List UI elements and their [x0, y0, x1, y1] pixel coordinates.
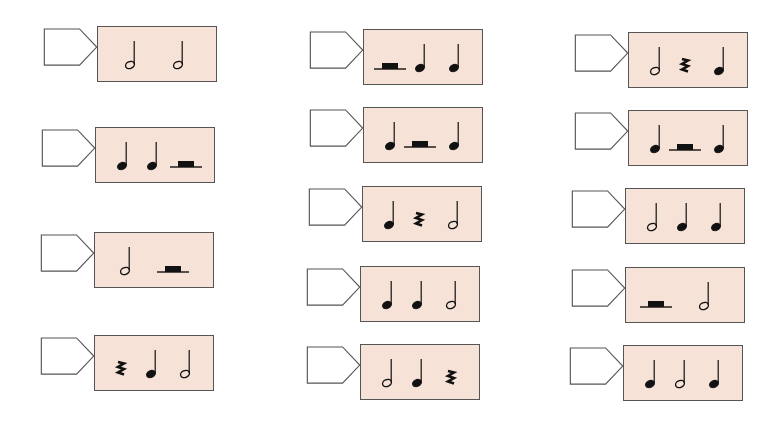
half-note-icon: [445, 281, 456, 310]
quarter-note-icon: [713, 47, 724, 76]
measure-card: [574, 32, 750, 92]
answer-input[interactable]: [44, 343, 88, 371]
measure-card: [41, 127, 217, 187]
rhythm-symbols: [629, 111, 749, 167]
rhythm-symbols: [629, 33, 749, 89]
rhythm-symbols: [624, 346, 744, 402]
measure-card: [309, 29, 485, 89]
rhythm-symbols: [626, 189, 746, 245]
answer-input[interactable]: [47, 34, 91, 62]
quarter-note-icon: [383, 201, 394, 230]
half-note-icon: [124, 41, 135, 70]
quarter-note-icon: [448, 44, 459, 73]
half-rest-icon: [640, 301, 672, 307]
quarter-note-icon: [116, 142, 127, 171]
measure-card: [306, 344, 482, 404]
half-note-icon: [674, 360, 685, 389]
rhythm-symbols: [363, 187, 483, 243]
measure-card: [40, 335, 216, 395]
rhythm-symbols: [96, 128, 216, 184]
half-note-icon: [381, 359, 392, 388]
half-rest-icon: [157, 266, 189, 272]
rhythm-symbols: [361, 345, 481, 401]
answer-input[interactable]: [575, 275, 619, 303]
rhythm-measure-box: [625, 188, 745, 244]
answer-input[interactable]: [578, 118, 622, 146]
half-note-icon: [119, 247, 130, 276]
rhythm-symbols: [98, 27, 218, 83]
rhythm-symbols: [364, 30, 484, 86]
half-note-icon: [698, 282, 709, 311]
rhythm-measure-box: [623, 345, 743, 401]
quarter-rest-icon: [448, 371, 454, 384]
rhythm-measure-box: [94, 335, 214, 391]
quarter-note-icon: [145, 350, 156, 379]
rhythm-measure-box: [95, 127, 215, 183]
half-note-icon: [649, 47, 660, 76]
rhythm-symbols: [95, 233, 215, 289]
answer-input[interactable]: [313, 37, 357, 65]
quarter-note-icon: [676, 203, 687, 232]
rhythm-measure-box: [363, 107, 483, 163]
measure-card: [574, 110, 750, 170]
quarter-note-icon: [384, 122, 395, 151]
rhythm-symbols: [364, 108, 484, 164]
quarter-rest-icon: [118, 362, 124, 375]
half-note-icon: [646, 203, 657, 232]
measure-card: [309, 107, 485, 167]
answer-input[interactable]: [578, 40, 622, 68]
measure-card: [43, 26, 219, 86]
quarter-note-icon: [710, 203, 721, 232]
answer-input[interactable]: [310, 352, 354, 380]
half-note-icon: [179, 350, 190, 379]
measure-card: [569, 345, 745, 405]
answer-input[interactable]: [313, 115, 357, 143]
rhythm-measure-box: [628, 32, 748, 88]
measure-card: [40, 232, 216, 292]
rhythm-symbols: [95, 336, 215, 392]
rhythm-measure-box: [360, 344, 480, 400]
answer-input[interactable]: [310, 274, 354, 302]
measure-card: [306, 266, 482, 326]
quarter-note-icon: [644, 360, 655, 389]
measure-card: [571, 188, 747, 248]
rhythm-symbols: [626, 268, 746, 324]
measure-card: [308, 186, 484, 246]
half-note-icon: [172, 41, 183, 70]
answer-input[interactable]: [575, 196, 619, 224]
half-rest-icon: [170, 161, 202, 167]
quarter-note-icon: [713, 125, 724, 154]
answer-input[interactable]: [573, 353, 617, 381]
quarter-note-icon: [708, 360, 719, 389]
rhythm-measure-box: [362, 186, 482, 242]
answer-input[interactable]: [312, 194, 356, 222]
rhythm-measure-box: [94, 232, 214, 288]
answer-input[interactable]: [45, 135, 89, 163]
rhythm-symbols: [361, 267, 481, 323]
quarter-note-icon: [411, 281, 422, 310]
rhythm-measure-box: [363, 29, 483, 85]
half-rest-icon: [669, 144, 701, 150]
quarter-rest-icon: [682, 59, 688, 72]
rhythm-measure-box: [97, 26, 217, 82]
quarter-note-icon: [649, 125, 660, 154]
half-note-icon: [447, 201, 458, 230]
rhythm-measure-box: [360, 266, 480, 322]
rhythm-measure-box: [625, 267, 745, 323]
quarter-note-icon: [414, 44, 425, 73]
quarter-note-icon: [411, 359, 422, 388]
rhythm-measure-box: [628, 110, 748, 166]
answer-input[interactable]: [44, 240, 88, 268]
measure-card: [571, 267, 747, 327]
half-rest-icon: [404, 141, 436, 147]
quarter-rest-icon: [416, 213, 422, 226]
quarter-note-icon: [381, 281, 392, 310]
quarter-note-icon: [448, 122, 459, 151]
quarter-note-icon: [146, 142, 157, 171]
half-rest-icon: [374, 63, 406, 69]
